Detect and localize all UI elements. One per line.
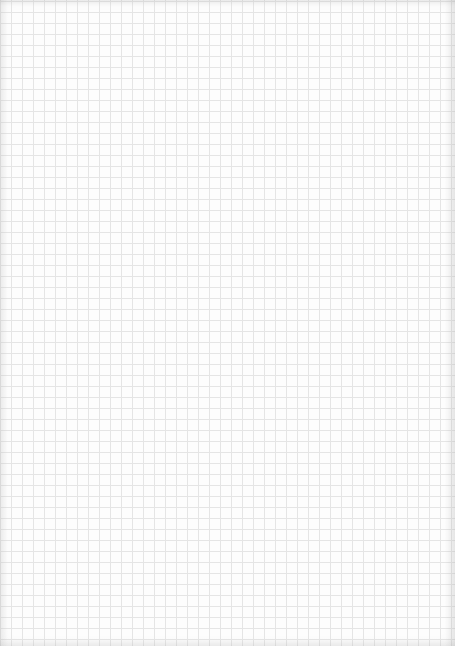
right-edge-shadow xyxy=(445,0,455,646)
top-edge-shadow xyxy=(0,0,455,6)
bottom-edge-shadow xyxy=(0,638,455,646)
graph-paper-sheet xyxy=(0,0,455,646)
left-edge-shadow xyxy=(0,0,8,646)
grid-lines xyxy=(0,0,455,646)
